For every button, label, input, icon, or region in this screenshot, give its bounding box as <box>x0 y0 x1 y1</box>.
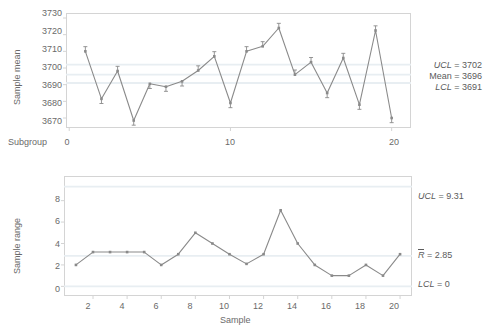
data-point-marker <box>342 57 345 60</box>
data-point-marker <box>279 209 282 212</box>
xbar-lcl-label: LCL = 3691 <box>412 82 482 93</box>
data-point-marker <box>109 251 112 254</box>
xbar-lcl-value: = 3691 <box>452 82 482 92</box>
range-center-label: R = 2.85 <box>418 250 452 260</box>
data-point-marker <box>92 251 95 254</box>
data-point-marker <box>278 27 281 30</box>
data-point-marker <box>126 251 129 254</box>
data-point-marker <box>382 274 385 277</box>
data-point-marker <box>331 274 334 277</box>
range-x-tick-14: 14 <box>282 301 302 311</box>
data-point-marker <box>358 103 361 106</box>
xbar-limit-labels: UCL = 3702 Mean = 3696 LCL = 3691 <box>412 60 482 93</box>
data-line <box>76 210 400 275</box>
data-point-marker <box>313 264 316 267</box>
range-x-axis-title: Sample <box>220 315 251 325</box>
data-point-marker <box>165 85 168 88</box>
xbar-lcl-prefix: LCL <box>435 82 452 92</box>
range-x-tick-10: 10 <box>214 301 234 311</box>
data-point-marker <box>229 102 232 105</box>
data-point-marker <box>181 80 184 83</box>
data-point-marker <box>310 61 313 64</box>
data-point-marker <box>326 92 329 95</box>
range-x-tick-12: 12 <box>248 301 268 311</box>
xbar-center-prefix: Mean <box>429 71 452 81</box>
data-point-marker <box>177 253 180 256</box>
range-x-tick-4: 4 <box>112 301 132 311</box>
data-point-marker <box>132 119 135 122</box>
data-point-marker <box>365 264 368 267</box>
xbar-center-label: Mean = 3696 <box>412 71 482 82</box>
xbar-x-tick-0: 0 <box>57 137 77 147</box>
range-ucl-prefix: UCL <box>418 191 436 201</box>
data-point-marker <box>213 55 216 58</box>
range-ucl-label: UCL = 9.31 <box>418 191 464 201</box>
data-point-marker <box>399 253 402 256</box>
range-center-prefix: R <box>418 250 425 260</box>
data-point-marker <box>294 73 297 76</box>
range-x-tick-2: 2 <box>78 301 98 311</box>
xbar-ucl-label: UCL = 3702 <box>412 60 482 71</box>
data-point-marker <box>348 274 351 277</box>
xbar-x-axis-title: Subgroup <box>8 137 47 147</box>
data-point-marker <box>228 253 231 256</box>
data-point-marker <box>194 231 197 234</box>
range-x-tick-20: 20 <box>384 301 404 311</box>
data-point-marker <box>262 253 265 256</box>
data-point-marker <box>374 29 377 32</box>
data-point-marker <box>390 117 393 120</box>
data-point-marker <box>296 242 299 245</box>
range-ucl-value: = 9.31 <box>436 191 464 201</box>
range-control-chart: Sample range 8 6 4 2 0 Sample 2 4 6 8 10… <box>0 160 484 334</box>
data-point-marker <box>245 263 248 266</box>
range-lcl-label: LCL = 0 <box>418 279 450 289</box>
range-lcl-prefix: LCL <box>418 279 435 289</box>
xbar-x-tick-10: 10 <box>220 137 240 147</box>
data-point-marker <box>211 242 214 245</box>
range-x-tick-16: 16 <box>316 301 336 311</box>
range-x-tick-18: 18 <box>350 301 370 311</box>
data-point-marker <box>116 70 119 73</box>
data-point-marker <box>75 264 78 267</box>
data-point-marker <box>160 264 163 267</box>
data-point-marker <box>84 50 87 53</box>
data-point-marker <box>197 69 200 72</box>
xbar-ucl-value: = 3702 <box>452 60 482 70</box>
xbar-center-value: = 3696 <box>452 71 482 81</box>
xbar-ucl-prefix: UCL <box>434 60 452 70</box>
range-plot-svg <box>0 160 484 334</box>
range-lcl-value: = 0 <box>435 279 450 289</box>
xbar-control-chart: Sample mean 3730 3720 3710 3700 3690 368… <box>0 0 484 160</box>
data-point-marker <box>100 98 103 101</box>
range-center-value: = 2.85 <box>425 250 453 260</box>
data-point-marker <box>245 50 248 53</box>
data-point-marker <box>261 45 264 48</box>
range-x-tick-8: 8 <box>180 301 200 311</box>
data-point-marker <box>149 83 152 86</box>
range-x-tick-6: 6 <box>146 301 166 311</box>
data-point-marker <box>143 251 146 254</box>
xbar-x-tick-20: 20 <box>384 137 404 147</box>
